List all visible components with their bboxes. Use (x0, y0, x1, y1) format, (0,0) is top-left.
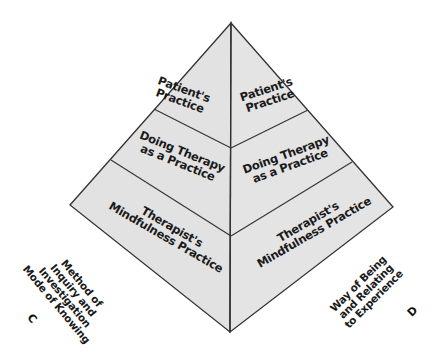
pyramid-diagram: Patient's Practice Doing Therapy as a Pr… (0, 0, 445, 360)
